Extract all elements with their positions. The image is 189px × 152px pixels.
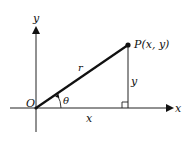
y-axis-label: y	[32, 12, 40, 25]
angle-label: θ	[63, 95, 69, 106]
radius-label: r	[78, 62, 84, 73]
point-p	[125, 42, 130, 47]
x-axis-label: x	[175, 102, 182, 115]
radius-segment	[36, 45, 128, 108]
polar-coordinates-diagram: y x O P(x, y) r θ x y	[0, 0, 189, 152]
origin-label: O	[26, 97, 35, 110]
horizontal-leg-label: x	[86, 112, 93, 125]
point-label: P(x, y)	[133, 38, 169, 51]
vertical-leg-label: y	[130, 75, 138, 88]
right-angle-marker	[122, 102, 128, 108]
